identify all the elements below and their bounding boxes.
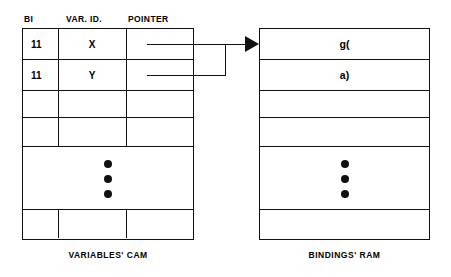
pointer-line-vertical-join [225,44,226,76]
ellipsis-dot [341,190,349,198]
ram-cell-value: a) [260,69,429,81]
table-row: g( [260,29,429,60]
diagram-canvas: BI VAR. ID. POINTER 11 X 11 Y [0,0,451,277]
column-divider [58,118,59,146]
table-row [260,118,429,147]
column-divider [126,118,127,146]
ram-cell-value: g( [260,38,429,50]
cam-cell-bi: 11 [31,39,42,50]
ellipsis-dot [104,190,112,198]
caption-bindings-ram: BINDINGS' RAM [259,250,430,260]
vertical-ellipsis [23,147,193,210]
column-header-pointer: POINTER [128,14,169,24]
table-row: a) [260,60,429,91]
bindings-ram-table: g( a) [259,28,430,240]
table-row [260,210,429,238]
table-row [23,118,193,147]
ellipsis-dot [104,160,112,168]
pointer-arrow-head [245,36,259,52]
pointer-line-to-arrow [220,44,245,45]
pointer-line-row1 [147,44,220,45]
ellipsis-dot [104,175,112,183]
ellipsis-dot [341,175,349,183]
column-header-bi: BI [24,14,33,24]
table-row [23,210,193,238]
column-divider [126,210,127,238]
column-divider [58,91,59,117]
table-row [260,91,429,118]
cam-cell-bi: 11 [31,70,42,81]
column-header-var-id: VAR. ID. [66,14,102,24]
column-divider [126,91,127,117]
column-divider [58,210,59,238]
cam-cell-var-id: Y [58,70,126,81]
pointer-line-row2 [147,75,226,76]
cam-cell-var-id: X [58,39,126,50]
ram-ellipsis-row [260,147,429,210]
cam-ellipsis-row [23,147,193,210]
table-row [23,91,193,118]
variables-cam-table: 11 X 11 Y [22,28,194,240]
column-divider [126,29,127,59]
caption-variables-cam: VARIABLES' CAM [22,250,194,260]
column-divider [126,60,127,90]
vertical-ellipsis [260,147,429,210]
ellipsis-dot [341,160,349,168]
